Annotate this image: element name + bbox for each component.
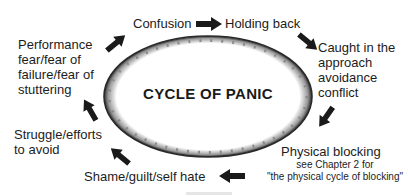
node-performance-line: failure/fear of [18,67,94,82]
node-struggle-line: to avoid [14,142,102,157]
node-confusion: Confusion [133,16,192,31]
node-struggle: Struggle/efforts to avoid [14,127,102,157]
node-caught-line: approach [318,55,395,70]
cropped-caption [186,192,232,195]
arrow-down-left-icon [313,103,338,131]
node-caught-line: Caught in the [318,40,395,55]
node-caught-line: conflict [318,85,395,100]
note-line: see Chapter 2 for [260,159,408,171]
node-shame: Shame/guilt/self hate [84,169,205,184]
node-holding-back: Holding back [225,16,300,31]
arrow-up-left-icon [78,96,102,124]
node-physical-blocking-note: see Chapter 2 for "the physical cycle of… [260,159,408,183]
node-performance-fear: Performance fear/fear of failure/fear of… [18,37,94,97]
node-performance-line: Performance [18,37,94,52]
arrow-right-icon [196,17,222,31]
node-caught-line: avoidance [318,70,395,85]
node-caught: Caught in the approach avoidance conflic… [318,40,395,100]
note-line: "the physical cycle of blocking" [260,171,408,183]
node-physical-blocking: Physical blocking [281,144,381,159]
node-struggle-line: Struggle/efforts [14,127,102,142]
center-title: CYCLE OF PANIC [103,85,313,102]
node-performance-line: fear/fear of [18,52,94,67]
arrow-left-icon [219,169,245,183]
node-performance-line: stuttering [18,82,94,97]
